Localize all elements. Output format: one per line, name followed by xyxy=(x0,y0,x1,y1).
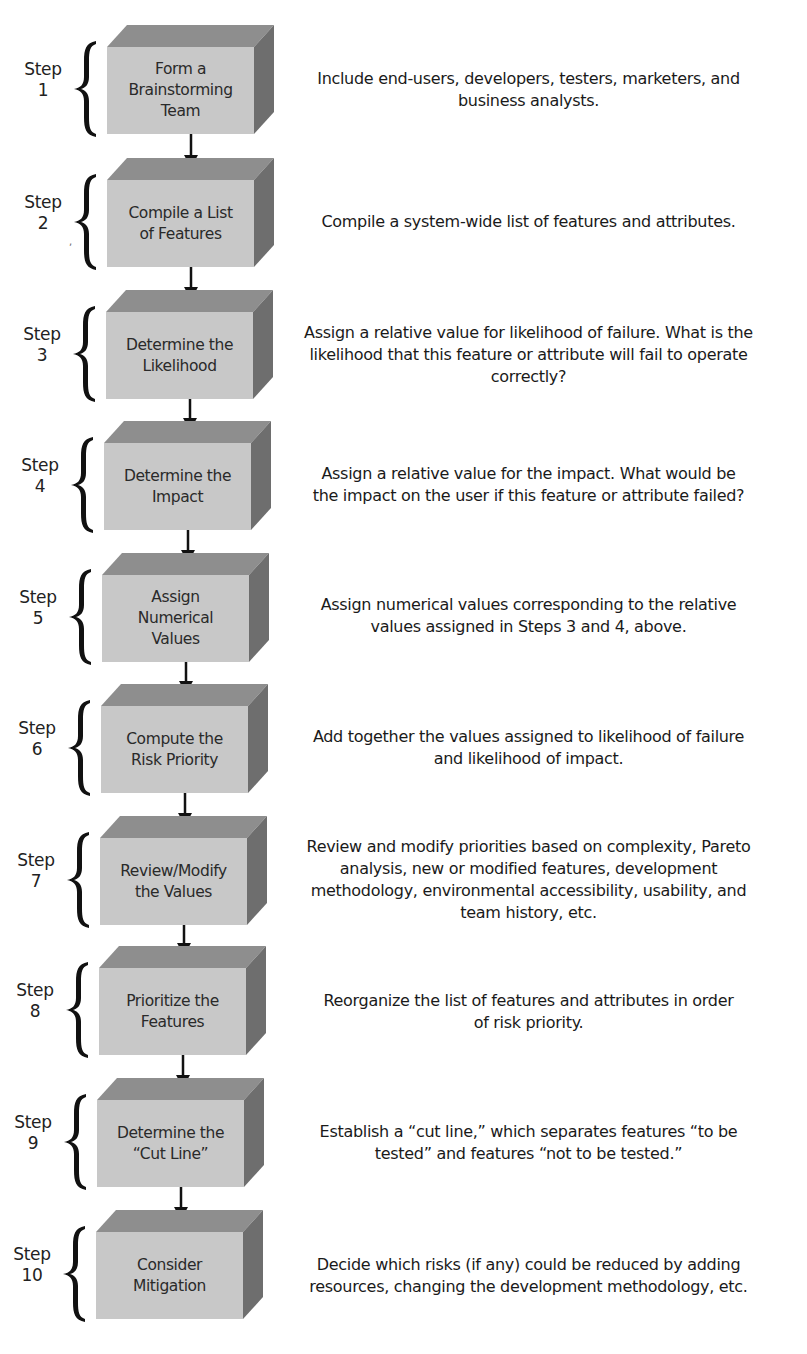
process-step-10: Step10ConsiderMitigationDecide which ris… xyxy=(0,0,807,1354)
step-box-title: ConsiderMitigation xyxy=(96,1232,243,1319)
description-line: Assign a relative value for likelihood o… xyxy=(276,322,781,344)
step-number: 9 xyxy=(2,1133,64,1154)
step-number: 4 xyxy=(9,476,71,497)
step-word: Step xyxy=(7,587,69,608)
down-arrow-icon xyxy=(177,925,191,956)
step-word: Step xyxy=(4,980,66,1001)
step-box: Prioritize theFeatures xyxy=(99,946,269,1056)
box-title-line: Determine the xyxy=(126,335,233,356)
box-title-line: Determine the xyxy=(124,466,231,487)
process-step-8: Step8Prioritize theFeaturesReorganize th… xyxy=(0,0,807,1354)
step-box: Determine the“Cut Line” xyxy=(97,1078,267,1188)
process-step-5: Step5AssignNumericalValuesAssign numeric… xyxy=(0,0,807,1354)
down-arrow-icon xyxy=(176,1055,190,1088)
step-word: Step xyxy=(1,1244,63,1265)
step-description: Assign a relative value for the impact. … xyxy=(276,463,781,507)
curly-brace-icon xyxy=(61,1224,91,1324)
description-line: tested” and features “not to be tested.” xyxy=(276,1143,781,1165)
curly-brace-icon xyxy=(71,304,101,404)
curly-brace-icon xyxy=(69,435,99,535)
description-line: business analysts. xyxy=(276,90,781,112)
box-title-line: “Cut Line” xyxy=(117,1144,224,1165)
description-line: analysis, new or modified features, deve… xyxy=(276,858,781,880)
box-title-line: Form a xyxy=(128,59,232,80)
stray-mark: , xyxy=(69,236,72,247)
curly-brace-icon xyxy=(66,698,96,798)
description-line: correctly? xyxy=(276,366,781,388)
step-word: Step xyxy=(5,850,67,871)
process-step-9: Step9Determine the“Cut Line”Establish a … xyxy=(0,0,807,1354)
process-step-3: Step3Determine theLikelihoodAssign a rel… xyxy=(0,0,807,1354)
box-title-line: Consider xyxy=(133,1255,206,1276)
description-line: methodology, environmental accessibility… xyxy=(276,880,781,902)
down-arrow-icon xyxy=(178,793,192,826)
curly-brace-icon xyxy=(67,567,97,667)
curly-brace-icon xyxy=(72,172,102,272)
description-line: of risk priority. xyxy=(276,1012,781,1034)
step-word: Step xyxy=(2,1112,64,1133)
step-word: Step xyxy=(11,324,73,345)
step-number: 7 xyxy=(5,871,67,892)
box-title-line: Risk Priority xyxy=(126,750,223,771)
box-title-line: Brainstorming xyxy=(128,80,232,101)
description-line: likelihood that this feature or attribut… xyxy=(276,344,781,366)
process-step-6: Step6Compute theRisk PriorityAdd togethe… xyxy=(0,0,807,1354)
step-box: ConsiderMitigation xyxy=(96,1210,266,1320)
description-line: and likelihood of impact. xyxy=(276,748,781,770)
step-box-title: Prioritize theFeatures xyxy=(99,968,246,1055)
box-title-line: Review/Modify xyxy=(120,861,227,882)
step-label: Step5 xyxy=(7,587,69,629)
step-box-title: Determine theLikelihood xyxy=(106,312,253,399)
step-description: Review and modify priorities based on co… xyxy=(276,836,781,924)
step-box: Compute theRisk Priority xyxy=(101,684,271,794)
step-word: Step xyxy=(6,718,68,739)
step-box: Determine theImpact xyxy=(104,421,274,531)
down-arrow-icon xyxy=(183,399,197,431)
step-description: Reorganize the list of features and attr… xyxy=(276,990,781,1034)
step-description: Assign numerical values corresponding to… xyxy=(276,594,781,638)
step-word: Step xyxy=(12,192,74,213)
description-line: Include end-users, developers, testers, … xyxy=(276,68,781,90)
step-box-title: Compile a Listof Features xyxy=(107,180,254,267)
step-box: Compile a Listof Features xyxy=(107,158,277,268)
down-arrow-icon xyxy=(184,267,198,300)
description-line: Assign a relative value for the impact. … xyxy=(276,463,781,485)
description-line: Add together the values assigned to like… xyxy=(276,726,781,748)
step-word: Step xyxy=(9,455,71,476)
step-description: Assign a relative value for likelihood o… xyxy=(276,322,781,388)
step-number: 10 xyxy=(1,1265,63,1286)
step-label: Step4 xyxy=(9,455,71,497)
down-arrow-icon xyxy=(179,662,193,694)
box-title-line: Assign xyxy=(138,587,213,608)
description-line: Reorganize the list of features and attr… xyxy=(276,990,781,1012)
box-title-line: of Features xyxy=(128,224,232,245)
step-label: Step3 xyxy=(11,324,73,366)
box-title-line: Team xyxy=(128,101,232,122)
box-title-line: Compile a List xyxy=(128,203,232,224)
box-title-line: Determine the xyxy=(117,1123,224,1144)
process-step-1: Step1Form aBrainstormingTeamInclude end-… xyxy=(0,0,807,1354)
step-label: Step8 xyxy=(4,980,66,1022)
step-description: Add together the values assigned to like… xyxy=(276,726,781,770)
description-line: Assign numerical values corresponding to… xyxy=(276,594,781,616)
box-title-line: Numerical xyxy=(138,608,213,629)
down-arrow-icon xyxy=(174,1187,188,1220)
step-number: 6 xyxy=(6,739,68,760)
step-number: 5 xyxy=(7,608,69,629)
process-step-4: Step4Determine theImpactAssign a relativ… xyxy=(0,0,807,1354)
step-box: Review/Modifythe Values xyxy=(100,816,270,926)
step-box-title: Form aBrainstormingTeam xyxy=(107,47,254,134)
step-box-title: Compute theRisk Priority xyxy=(101,706,248,793)
step-word: Step xyxy=(12,59,74,80)
down-arrow-icon xyxy=(184,134,198,168)
down-arrow-icon xyxy=(181,530,195,563)
box-title-line: Prioritize the xyxy=(126,991,219,1012)
step-label: Step10 xyxy=(1,1244,63,1286)
step-description: Include end-users, developers, testers, … xyxy=(276,68,781,112)
curly-brace-icon xyxy=(65,830,95,930)
step-number: 8 xyxy=(4,1001,66,1022)
description-line: Compile a system-wide list of features a… xyxy=(276,211,781,233)
step-box-title: AssignNumericalValues xyxy=(102,575,249,662)
box-title-line: Likelihood xyxy=(126,356,233,377)
step-label: Step2 xyxy=(12,192,74,234)
